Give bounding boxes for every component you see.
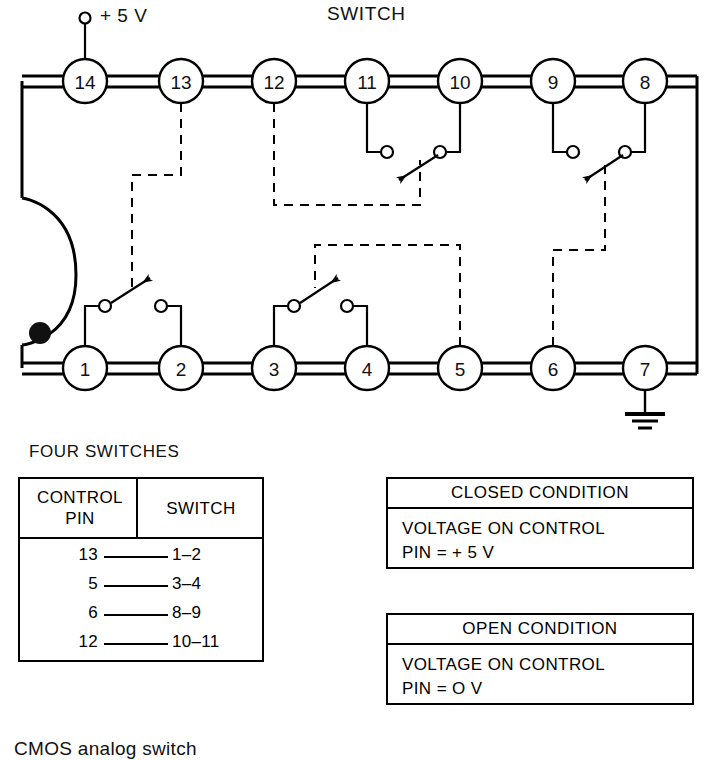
closed-condition-body: VOLTAGE ON CONTROL PIN = + 5 V [402, 517, 605, 565]
open-condition-line2: PIN = O V [402, 677, 605, 701]
supply-voltage-label: + 5 V [100, 5, 147, 27]
table-row: 12 10–11 [20, 632, 266, 656]
switch-contacts-3-4 [274, 278, 367, 346]
pin-label-9: 9 [548, 72, 559, 93]
closed-condition-line1: VOLTAGE ON CONTROL [402, 517, 605, 541]
ground-symbol [625, 390, 665, 428]
table-cell-control-pin: 5 [46, 574, 98, 594]
open-condition-body: VOLTAGE ON CONTROL PIN = O V [402, 653, 605, 701]
pin-label-1: 1 [80, 359, 91, 380]
pin-label-13: 13 [170, 72, 191, 93]
control-pin-switch-table: CONTROL PIN SWITCH 13 1–2 5 3–4 6 8–9 [18, 477, 264, 662]
open-condition-line1: VOLTAGE ON CONTROL [402, 653, 605, 677]
pin-label-5: 5 [455, 359, 466, 380]
table-cell-switch: 3–4 [172, 574, 201, 594]
table-row: 13 1–2 [20, 545, 266, 569]
pin-label-3: 3 [269, 359, 280, 380]
open-condition-box: OPEN CONDITION VOLTAGE ON CONTROL PIN = … [386, 613, 694, 705]
table-body: 13 1–2 5 3–4 6 8–9 12 10–11 [20, 539, 262, 662]
control-dashed-5 [315, 245, 460, 346]
table-row-connector [104, 643, 168, 645]
table-cell-switch: 8–9 [172, 603, 201, 623]
pin-label-12: 12 [263, 72, 284, 93]
table-header-switch: SWITCH [138, 498, 264, 519]
control-dashed-12 [274, 103, 420, 205]
table-cell-control-pin: 6 [46, 603, 98, 623]
four-switches-label: FOUR SWITCHES [29, 442, 179, 462]
table-header-control-pin: CONTROL PIN [24, 487, 136, 529]
table-row: 5 3–4 [20, 574, 266, 598]
pin-circle-mask [63, 59, 667, 390]
switch-contacts-8-9 [553, 103, 645, 180]
pin-one-dot [29, 322, 51, 344]
open-condition-title: OPEN CONDITION [388, 615, 692, 645]
table-row-connector [104, 556, 168, 558]
figure-caption: CMOS analog switch [14, 738, 197, 760]
pin-label-10: 10 [449, 72, 470, 93]
closed-condition-line2: PIN = + 5 V [402, 541, 605, 565]
control-dashed-13 [132, 103, 181, 288]
table-row-connector [104, 614, 168, 616]
table-cell-switch: 10–11 [172, 632, 220, 652]
pin-label-6: 6 [548, 359, 559, 380]
table-header-row: CONTROL PIN SWITCH [20, 479, 262, 539]
pin-label-4: 4 [362, 359, 373, 380]
closed-condition-title: CLOSED CONDITION [388, 479, 692, 509]
switch-contacts-10-11 [367, 103, 460, 180]
control-dashed-6 [553, 160, 605, 346]
table-header-control-line1: CONTROL [24, 487, 136, 508]
switch-contacts-1-2 [85, 278, 181, 346]
table-header-control-line2: PIN [24, 508, 136, 529]
ic-body-outline [22, 81, 76, 368]
table-row-connector [104, 585, 168, 587]
table-row: 6 8–9 [20, 603, 266, 627]
switch-title-label: SWITCH [327, 3, 406, 25]
closed-condition-box: CLOSED CONDITION VOLTAGE ON CONTROL PIN … [386, 477, 694, 569]
pin-number-labels: 14 13 12 11 10 9 8 1 2 3 4 5 6 7 [74, 72, 650, 380]
table-cell-control-pin: 13 [46, 545, 98, 565]
table-cell-control-pin: 12 [46, 632, 98, 652]
pin-label-8: 8 [640, 72, 651, 93]
pin-label-14: 14 [74, 72, 96, 93]
figure-canvas: 14 13 12 11 10 9 8 1 2 3 4 5 6 7 SWITCH … [0, 0, 723, 760]
pin-label-2: 2 [176, 359, 187, 380]
pin-label-11: 11 [357, 72, 377, 93]
supply-terminal [80, 13, 91, 60]
table-cell-switch: 1–2 [172, 545, 201, 565]
pin-label-7: 7 [640, 359, 651, 380]
